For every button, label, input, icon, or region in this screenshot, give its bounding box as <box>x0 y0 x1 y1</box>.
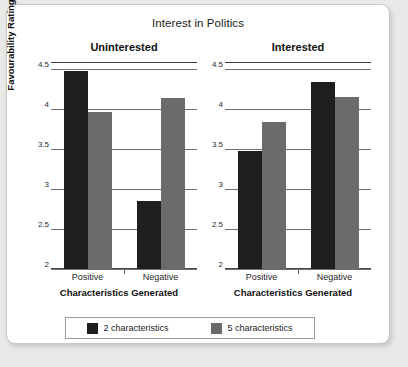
chart-title: Interest in Politics <box>7 17 389 29</box>
bar <box>137 201 161 269</box>
y-axis-tick-label: 2.5 <box>212 220 223 229</box>
panel-header-rule <box>225 62 371 63</box>
figure-card: Interest in Politics Favourability Ratin… <box>6 4 390 344</box>
x-axis-category-label: Positive <box>51 272 124 282</box>
bar <box>262 122 286 269</box>
bar <box>64 71 88 269</box>
legend-item: 2 characteristics <box>87 323 168 334</box>
bar <box>311 82 335 269</box>
legend-swatch <box>87 323 98 334</box>
bar <box>238 151 262 269</box>
panel-header-rule <box>51 62 197 63</box>
y-axis-title: Favourability Rating <box>5 0 16 105</box>
y-axis-tick-label: 4.5 <box>38 60 49 69</box>
x-axis-title: Characteristics Generated <box>39 287 199 298</box>
x-axis-category-label: Negative <box>124 272 197 282</box>
plot-area: 22.533.544.5PositiveNegative <box>51 69 197 269</box>
x-axis-tick <box>298 269 299 274</box>
panel-uninterested: Uninterested 22.533.544.5PositiveNegativ… <box>29 41 199 303</box>
gridline <box>51 69 197 70</box>
x-axis-category-label: Positive <box>225 272 298 282</box>
y-axis-tick-label: 3 <box>45 180 49 189</box>
y-axis-tick-label: 4.5 <box>212 60 223 69</box>
gridline <box>225 69 371 70</box>
legend-swatch <box>211 323 222 334</box>
x-axis-tick <box>124 269 125 274</box>
y-axis-tick-label: 2 <box>45 260 49 269</box>
legend-item: 5 characteristics <box>211 323 292 334</box>
y-axis-tick-label: 2.5 <box>38 220 49 229</box>
y-axis-tick-label: 4 <box>219 100 223 109</box>
y-axis-tick-label: 3.5 <box>212 140 223 149</box>
legend-label: 5 characteristics <box>227 323 292 333</box>
legend-label: 2 characteristics <box>103 323 168 333</box>
x-axis-title: Characteristics Generated <box>213 287 373 298</box>
y-axis-tick-label: 2 <box>219 260 223 269</box>
panel-header-label: Interested <box>223 41 373 53</box>
chart-legend: 2 characteristics5 characteristics <box>65 317 315 339</box>
plot-area: 22.533.544.5PositiveNegative <box>225 69 371 269</box>
x-axis-category-label: Negative <box>298 272 371 282</box>
y-axis-tick-label: 3.5 <box>38 140 49 149</box>
bar <box>88 112 112 269</box>
panel-interested: Interested 22.533.544.5PositiveNegative … <box>203 41 373 303</box>
bar <box>335 97 359 269</box>
panel-header-label: Uninterested <box>49 41 199 53</box>
y-axis-tick-label: 3 <box>219 180 223 189</box>
y-axis-tick-label: 4 <box>45 100 49 109</box>
bar <box>161 98 185 269</box>
